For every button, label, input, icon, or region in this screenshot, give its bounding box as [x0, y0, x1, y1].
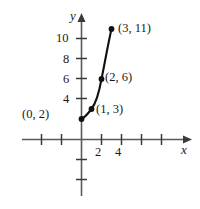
x-tick-label-2: 2 [95, 146, 101, 159]
data-point-2-6 [99, 76, 105, 82]
y-tick-label-6: 6 [63, 73, 69, 86]
data-point-1-3 [89, 106, 95, 112]
data-point-0-2 [79, 116, 85, 122]
y-tick-label-10: 10 [56, 32, 69, 45]
graph-figure: 10 8 6 4 2 4 y x (0, 2) (1, 3) (2, 6) (3… [0, 0, 200, 209]
point-label-0-2: (0, 2) [22, 108, 49, 121]
x-axis-label: x [181, 143, 187, 156]
y-axis-arrowhead [78, 13, 86, 22]
x-tick-label-4: 4 [115, 146, 121, 159]
data-point-3-11 [109, 26, 115, 32]
point-label-1-3: (1, 3) [96, 103, 123, 116]
y-tick-label-8: 8 [63, 53, 69, 66]
y-tick-label-4: 4 [63, 93, 69, 106]
y-axis-label: y [70, 9, 76, 22]
point-label-2-6: (2, 6) [105, 71, 132, 84]
point-label-3-11: (3, 11) [118, 22, 151, 35]
